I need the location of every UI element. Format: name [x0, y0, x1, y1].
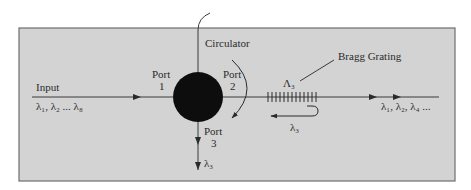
- optical-add-drop-diagram: Input λ₁, λ₂ ... λ₈ Circulator Port 1 Po…: [0, 0, 471, 190]
- port3-number: 3: [211, 137, 217, 149]
- reflected-wavelength-label: λ₃: [290, 121, 299, 133]
- circulator-label: Circulator: [205, 37, 250, 49]
- port2-word: Port: [223, 68, 241, 80]
- grating-period-label: Λ₃: [283, 77, 295, 89]
- input-wavelengths-label: λ₁, λ₂ ... λ₈: [36, 100, 83, 112]
- circulator-disk: [173, 72, 223, 122]
- bragg-grating-label: Bragg Grating: [338, 50, 402, 62]
- dropped-wavelength-label: λ₃: [204, 157, 213, 169]
- port1-number: 1: [159, 80, 165, 92]
- port2-number: 2: [230, 80, 236, 92]
- output-wavelengths-label: λ₁, λ₂, λ₄ ...: [381, 100, 431, 112]
- port3-word: Port: [204, 125, 222, 137]
- port1-word: Port: [152, 68, 170, 80]
- input-label: Input: [36, 81, 59, 93]
